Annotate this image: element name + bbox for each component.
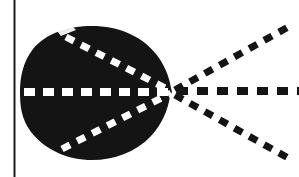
figure-root <box>0 0 299 177</box>
diagram-canvas <box>0 0 299 177</box>
